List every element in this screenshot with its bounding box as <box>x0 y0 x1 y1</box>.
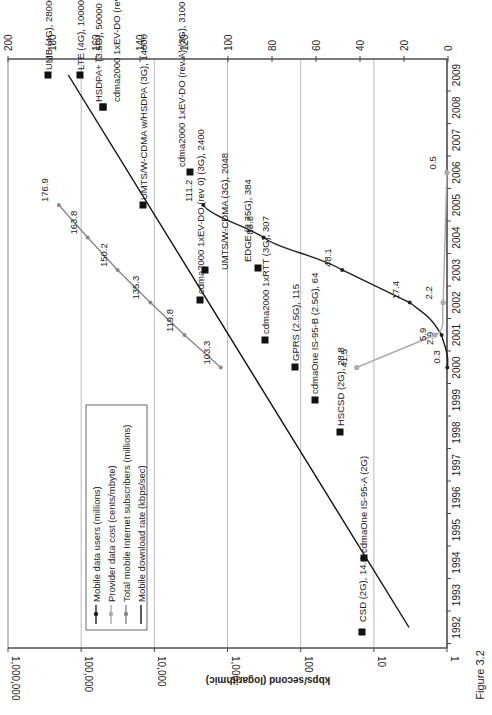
data-point <box>354 365 359 370</box>
technology-label: cdma2000 1xRTT (3G), 307 <box>260 216 271 334</box>
data-label: 0.5 <box>427 156 438 169</box>
y2-tick-label: 0 <box>443 45 454 51</box>
data-label: 103.3 <box>201 341 212 365</box>
x-tick-label: 1997 <box>451 453 462 476</box>
data-label: 0.3 <box>431 350 442 363</box>
technology-marker <box>187 169 194 176</box>
technology-label: UMTS/W-CDMA (3G), 2048 <box>219 153 230 270</box>
x-tick-label: 2001 <box>451 323 462 346</box>
data-point <box>432 332 437 337</box>
x-tick-label: 2006 <box>451 161 462 184</box>
technology-label: CSD (2G), 14.4 <box>357 557 368 622</box>
technology-label: UMB (4G), 280000 <box>43 0 54 70</box>
x-tick-label: 2007 <box>451 128 462 151</box>
chart: 1101001,00010,000100,0001,000,0000204060… <box>0 0 492 715</box>
data-label: 111.2 <box>183 180 194 202</box>
data-point <box>148 301 152 305</box>
y-tick-label: 1,000,000 <box>10 656 21 701</box>
x-tick-label: 1992 <box>451 616 462 639</box>
data-label: 5.9 <box>417 328 428 341</box>
y-tick-label: 100 <box>303 656 314 673</box>
data-point <box>182 333 186 337</box>
data-point <box>445 366 449 370</box>
legend-marker <box>94 612 98 616</box>
data-label: 48.1 <box>322 249 333 268</box>
x-tick-label: 1994 <box>451 551 462 574</box>
y-tick-label: 10,000 <box>156 656 167 687</box>
y2-tick-label: 200 <box>3 34 14 51</box>
legend-marker <box>109 612 113 616</box>
x-tick-label: 1998 <box>451 421 462 444</box>
data-point <box>441 300 446 305</box>
x-tick-label: 2000 <box>451 356 462 379</box>
data-label: 135.3 <box>130 276 141 300</box>
legend-label: Mobile download rate (kbps/sec) <box>136 465 147 602</box>
y-tick-label: 100,000 <box>83 656 94 693</box>
x-tick-label: 1996 <box>451 486 462 509</box>
y-tick-label: 10 <box>376 656 387 668</box>
technology-label: cdmaOne IS-95-A (2G) <box>358 456 369 553</box>
legend-marker <box>124 612 128 616</box>
y2-tick-label: 100 <box>223 34 234 51</box>
data-label: 17.4 <box>390 281 401 300</box>
technology-marker <box>100 104 107 111</box>
technology-marker <box>292 364 299 371</box>
x-tick-label: 2002 <box>451 291 462 314</box>
series-line <box>203 205 447 368</box>
x-tick-label: 2004 <box>451 226 462 249</box>
technology-label: GPRS (2.5G), 115 <box>290 284 301 361</box>
technology-marker <box>361 555 368 562</box>
data-label: 176.9 <box>39 178 50 202</box>
technology-marker <box>262 337 269 344</box>
technology-marker <box>77 72 84 79</box>
y2-tick-label: 20 <box>399 39 410 51</box>
technology-marker <box>312 397 319 404</box>
data-label: 150.2 <box>98 243 109 267</box>
data-point <box>57 203 61 207</box>
y-tick-label: 1 <box>449 656 460 662</box>
x-tick-label: 2008 <box>451 96 462 119</box>
y2-tick-label: 40 <box>355 39 366 51</box>
data-label: 163.8 <box>68 211 79 235</box>
x-tick-label: 1993 <box>451 583 462 606</box>
legend-label: Mobile data users (millions) <box>91 486 102 602</box>
technology-marker <box>359 629 366 636</box>
y2-tick-label: 80 <box>267 39 278 51</box>
data-point <box>444 170 449 175</box>
data-point <box>116 268 120 272</box>
technology-label: cdma2000 1xEV-DO (rev A) (3G), 3100 <box>176 2 187 167</box>
legend: Mobile data users (millions)Provider dat… <box>86 405 147 630</box>
technology-label: EDGE (2.75G), 384 <box>242 179 253 262</box>
data-point <box>219 366 223 370</box>
technology-label: LTE (4G), 100000 <box>75 0 86 70</box>
x-tick-label: 1999 <box>451 388 462 411</box>
technology-marker <box>197 297 204 304</box>
technology-marker <box>140 202 147 209</box>
technology-marker <box>202 267 209 274</box>
data-label: 119.8 <box>164 309 175 332</box>
data-point <box>86 236 90 240</box>
technology-label: HSDPA+ (3.5G), 50000 <box>93 3 104 102</box>
x-tick-label: 1995 <box>451 518 462 541</box>
x-tick-label: 2005 <box>451 193 462 216</box>
data-point <box>408 301 412 305</box>
technology-label: cdma2000 1xEV-DO (rev B) (3.5G), 46500 <box>111 0 122 102</box>
data-label: 2.2 <box>423 286 434 299</box>
technology-label: HSCSD (2G), 28.8 <box>335 347 346 426</box>
technology-label: cdmaOne IS-95-B (2.5G), 64 <box>309 273 320 394</box>
technology-marker <box>255 265 262 272</box>
y-axis-title: kbps/second (logarithmic) <box>206 675 330 686</box>
y2-tick-label: 60 <box>311 39 322 51</box>
x-tick-label: 2009 <box>451 63 462 86</box>
figure-caption: Figure 3.2 <box>474 650 486 700</box>
technology-marker <box>337 429 344 436</box>
technology-marker <box>45 72 52 79</box>
legend-label: Total mobile Internet subscribers (milli… <box>121 425 132 602</box>
technology-label: UMTS/W-CDMA w/HSDPA (3G), 14000 <box>138 34 149 200</box>
data-point <box>440 333 444 337</box>
data-point <box>340 268 344 272</box>
legend-label: Provider data cost (cents/mbyte) <box>106 465 117 602</box>
x-tick-label: 2003 <box>451 258 462 281</box>
